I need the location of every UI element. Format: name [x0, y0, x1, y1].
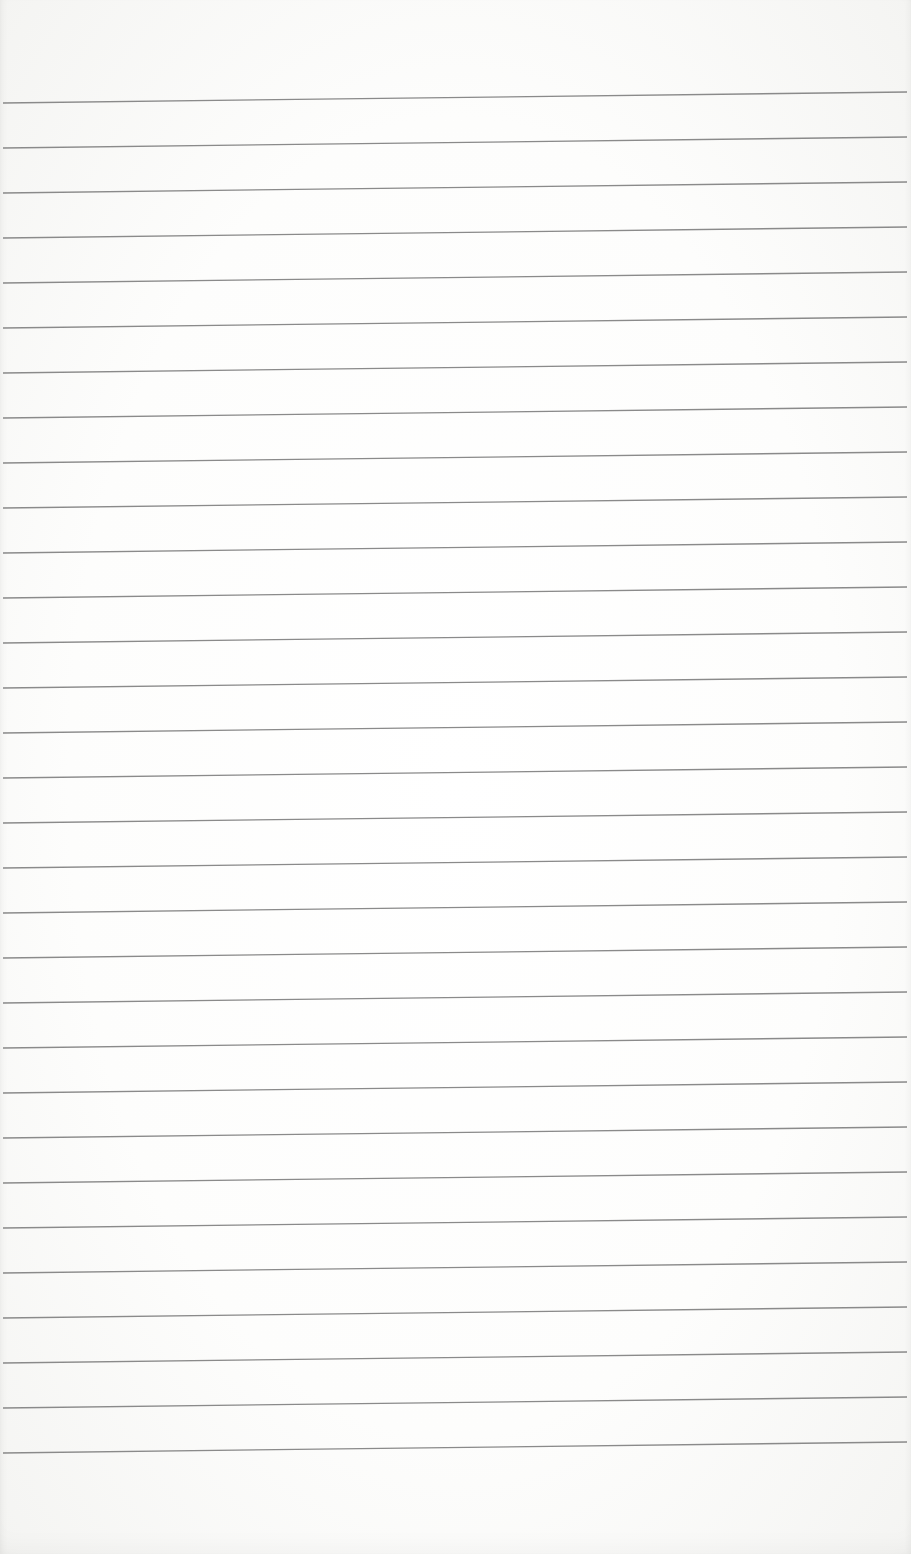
ruled-line	[3, 272, 907, 283]
ruled-line	[3, 1397, 907, 1408]
ruled-line	[3, 137, 907, 148]
ruled-line	[3, 587, 907, 598]
ruled-line	[3, 1442, 907, 1453]
ruled-line	[3, 902, 907, 913]
ruled-line	[3, 947, 907, 958]
ruled-line	[3, 1127, 907, 1138]
ruled-line	[3, 857, 907, 868]
ruled-line	[3, 1172, 907, 1183]
ruled-line	[3, 1307, 907, 1318]
ruled-line	[3, 407, 907, 418]
ruled-line	[3, 542, 907, 553]
ruled-line	[3, 1352, 907, 1363]
lined-paper-sheet	[0, 0, 911, 1554]
ruled-line	[3, 767, 907, 778]
ruled-line	[3, 1082, 907, 1093]
ruled-line	[3, 92, 907, 103]
ruled-line	[3, 812, 907, 823]
ruled-line	[3, 227, 907, 238]
ruled-line	[3, 677, 907, 688]
ruled-line	[3, 452, 907, 463]
ruled-line	[3, 722, 907, 733]
ruled-line	[3, 1262, 907, 1273]
ruled-line	[3, 992, 907, 1003]
ruled-line	[3, 182, 907, 193]
ruled-line	[3, 1037, 907, 1048]
ruled-line	[3, 497, 907, 508]
ruled-line	[3, 362, 907, 373]
ruled-line	[3, 632, 907, 643]
ruled-lines	[0, 0, 911, 1554]
ruled-line	[3, 317, 907, 328]
ruled-line	[3, 1217, 907, 1228]
